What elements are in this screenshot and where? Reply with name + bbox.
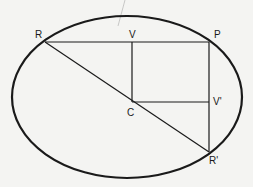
label-R: R	[35, 29, 42, 40]
scan-artifact-line	[118, 0, 125, 26]
label-V: V	[129, 29, 136, 40]
label-V-prime: V'	[213, 96, 222, 107]
diagram-canvas: R V P C V' R'	[0, 0, 253, 187]
ellipse-diagram: R V P C V' R'	[0, 0, 253, 187]
label-P: P	[214, 29, 221, 40]
label-R-prime: R'	[209, 155, 218, 166]
segments-group	[45, 42, 209, 152]
label-C: C	[127, 107, 134, 118]
segment-R-Rprime	[45, 42, 209, 152]
